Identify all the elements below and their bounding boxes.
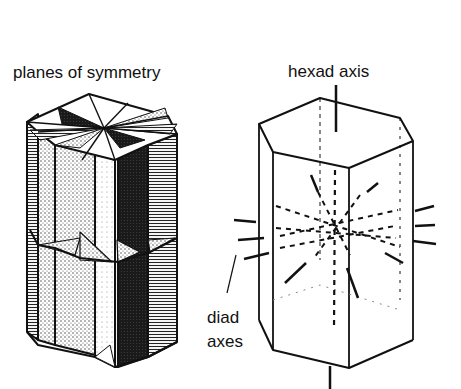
hexad-axis-label: hexad axis [288, 63, 369, 80]
bottom-edge [259, 320, 413, 368]
axes-label: axes [207, 333, 243, 350]
diad-leader-line [227, 255, 236, 293]
hexad-axis-inner [334, 170, 335, 330]
hidden-bottom [273, 285, 400, 310]
face-far-left [27, 114, 38, 340]
face-left [38, 132, 55, 345]
diad-label: diad [207, 309, 239, 326]
diagram-canvas [0, 0, 461, 389]
diad-axes-inner [276, 192, 400, 258]
planes-of-symmetry-label: planes of symmetry [13, 64, 160, 81]
right-prism [227, 85, 436, 389]
left-prism [27, 94, 177, 367]
